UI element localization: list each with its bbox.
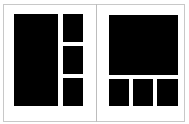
photo-slot-placeholder <box>14 14 58 106</box>
photo-slot-placeholder <box>157 79 178 106</box>
photo-slot-placeholder <box>63 78 83 106</box>
photo-slot-placeholder <box>109 79 129 106</box>
photo-slot-placeholder <box>109 15 178 75</box>
photo-slot-placeholder <box>133 79 153 106</box>
photo-slot-placeholder <box>63 14 83 42</box>
photo-slot-placeholder <box>63 46 83 74</box>
